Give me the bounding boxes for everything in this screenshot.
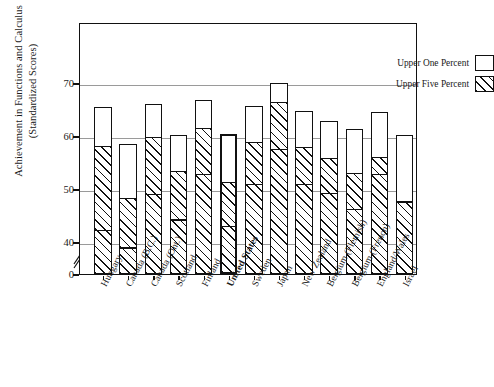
x-axis-label-scotland: Scotland [173,253,199,289]
legend-swatch-upper-one-percent [475,55,494,71]
x-axis-label-sweden: Sweden [249,256,273,289]
x-axis-label-japan: Japan [274,263,294,288]
x-axis-label-hungary: Hungary [98,253,124,288]
x-axis-label-israel: Israel [400,264,420,289]
legend-swatch-upper-five-percent [475,76,494,92]
x-axis-label-finland: Finland [199,256,223,288]
